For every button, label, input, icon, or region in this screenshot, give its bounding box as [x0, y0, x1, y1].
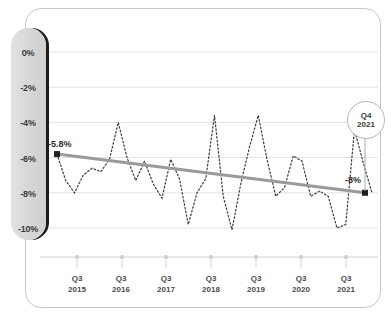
x-axis-label-2019-year: 2019 [236, 284, 276, 295]
x-axis-label-2021-year: 2021 [326, 284, 366, 295]
x-axis-label-2018-quarter: Q3 [191, 273, 231, 284]
start-value-label: -5.8% [48, 139, 72, 149]
y-axis-label-2: -4% [10, 118, 46, 128]
y-axis-label-4: -8% [10, 189, 46, 199]
x-axis-label-2019-quarter: Q3 [236, 273, 276, 284]
x-axis-label-2016-quarter: Q3 [101, 273, 141, 284]
x-axis-label-2020: Q3 2020 [281, 273, 321, 295]
x-axis-label-2018: Q3 2018 [191, 273, 231, 295]
y-axis-label-3: -6% [10, 154, 46, 164]
x-axis-label-2015-year: 2015 [57, 284, 97, 295]
x-axis-label-2015-quarter: Q3 [57, 273, 97, 284]
trend-line [57, 154, 365, 193]
y-axis-label-1: -2% [10, 83, 46, 93]
x-axis-label-2021: Q3 2021 [326, 273, 366, 295]
y-axis-band [11, 28, 46, 240]
chart-container: 0% -2% -4% -6% -8% -10% Q3 2015 Q3 2016 … [0, 0, 391, 317]
x-axis-label-2020-year: 2020 [281, 284, 321, 295]
q4-2021-callout: Q4 2021 [347, 101, 385, 139]
gridlines-group [40, 52, 378, 228]
callout-quarter: Q4 [361, 111, 372, 120]
x-axis-label-2017-year: 2017 [146, 284, 186, 295]
x-axis-label-2018-year: 2018 [191, 284, 231, 295]
chart-plot-area [0, 0, 391, 317]
x-axis-label-2017-quarter: Q3 [146, 273, 186, 284]
end-value-label: -8% [345, 175, 361, 185]
x-axis-label-2019: Q3 2019 [236, 273, 276, 295]
callout-year: 2021 [357, 120, 375, 129]
x-axis-label-2021-quarter: Q3 [326, 273, 366, 284]
x-axis-label-2020-quarter: Q3 [281, 273, 321, 284]
trend-start-marker [54, 151, 60, 157]
y-axis-label-5: -10% [10, 224, 46, 234]
x-axis-label-2016-year: 2016 [101, 284, 141, 295]
y-axis-label-0: 0% [10, 48, 46, 58]
x-axis-label-2016: Q3 2016 [101, 273, 141, 295]
x-axis-label-2015: Q3 2015 [57, 273, 97, 295]
x-axis-label-2017: Q3 2017 [146, 273, 186, 295]
